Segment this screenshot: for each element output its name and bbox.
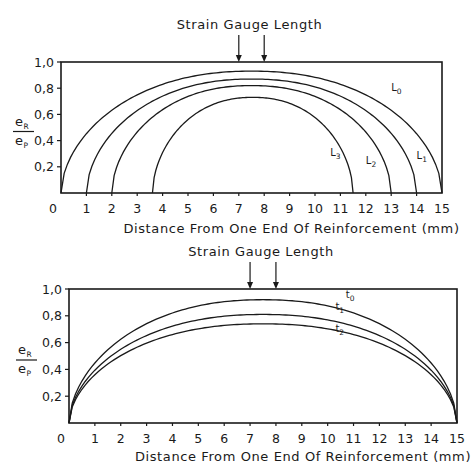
arrow-head-icon: [273, 282, 279, 289]
chart-bottom-time: Strain Gauge Length 0,20,40,60,81,0 0123…: [16, 244, 471, 464]
curves: [69, 300, 457, 423]
curve-label-l2: L2: [366, 155, 377, 169]
curve-label-t0: t0: [346, 289, 355, 303]
x-tick-label: 2: [117, 431, 125, 446]
curve-label-t1: t1: [335, 301, 344, 315]
y-label-numerator: eR: [18, 342, 32, 359]
x-tick-label: 4: [159, 201, 167, 216]
x-tick-label: 11: [346, 431, 362, 446]
y-tick-label: 0,4: [34, 133, 54, 148]
x-tick-label: 10: [307, 201, 323, 216]
x-tick-label: 14: [409, 201, 425, 216]
x-tick-label: 12: [358, 201, 374, 216]
curve-t0: [69, 300, 457, 423]
x-tick-label: 13: [383, 201, 399, 216]
x-tick-label: 7: [235, 201, 243, 216]
gauge-marker-arrows: [236, 35, 267, 62]
arrow-head-icon: [247, 282, 253, 289]
x-axis-ticks: 0123456789101112131415: [57, 423, 465, 446]
curve-label-l3: L3: [330, 147, 341, 161]
curve-l3: [152, 97, 353, 193]
x-axis-ticks: 0123456789101112131415: [49, 193, 450, 216]
x-tick-label: 10: [320, 431, 336, 446]
x-tick-label: 11: [332, 201, 348, 216]
gauge-annotation: Strain Gauge Length: [177, 17, 323, 32]
x-tick-label: 0: [57, 431, 65, 446]
x-tick-label: 15: [434, 201, 450, 216]
y-axis-label: eReP: [13, 114, 34, 150]
x-tick-label: 8: [272, 431, 280, 446]
y-tick-label: 0,4: [42, 362, 62, 377]
curve-label-l0: L0: [391, 82, 402, 96]
y-tick-label: 0,2: [42, 389, 62, 404]
gauge-marker-arrows: [247, 262, 279, 289]
x-axis-label: Distance From One End Of Reinforcement (…: [123, 221, 459, 236]
y-tick-label: 0,8: [34, 81, 54, 96]
x-tick-label: 0: [49, 201, 57, 216]
curve-t1: [69, 314, 457, 423]
y-tick-label: 1,0: [34, 55, 54, 70]
arrow-head-icon: [236, 55, 242, 62]
x-tick-label: 1: [82, 201, 90, 216]
x-tick-label: 9: [286, 201, 294, 216]
arrow-head-icon: [261, 55, 267, 62]
y-label-numerator: eR: [15, 114, 29, 131]
x-tick-label: 9: [298, 431, 306, 446]
x-tick-label: 5: [184, 201, 192, 216]
y-axis-ticks: 0,20,40,60,81,0: [34, 55, 61, 175]
figure-canvas: Strain Gauge Length 0,20,40,60,81,0 0123…: [0, 0, 473, 470]
gauge-annotation: Strain Gauge Length: [188, 244, 334, 259]
y-tick-label: 0,8: [42, 308, 62, 323]
curve-labels: t0t1t2: [335, 289, 354, 337]
x-tick-label: 4: [168, 431, 176, 446]
plot-border: [69, 289, 457, 423]
y-tick-label: 0,6: [34, 107, 54, 122]
y-axis-label: eReP: [16, 342, 37, 378]
x-tick-label: 14: [423, 431, 439, 446]
x-tick-label: 8: [260, 201, 268, 216]
x-tick-label: 3: [143, 431, 151, 446]
x-tick-label: 2: [108, 201, 116, 216]
y-tick-label: 1,0: [42, 282, 62, 297]
y-axis-ticks: 0,20,40,60,81,0: [42, 282, 69, 404]
y-tick-label: 0,6: [42, 335, 62, 350]
x-tick-label: 5: [194, 431, 202, 446]
plot-frame: [69, 289, 457, 423]
y-label-denominator: eP: [15, 133, 29, 150]
x-tick-label: 13: [397, 431, 413, 446]
x-tick-label: 3: [133, 201, 141, 216]
x-tick-label: 6: [209, 201, 217, 216]
curve-label-l1: L1: [417, 150, 428, 164]
x-tick-label: 1: [91, 431, 99, 446]
curve-label-t2: t2: [335, 323, 344, 337]
y-label-denominator: eP: [18, 361, 32, 378]
curve-t2: [69, 324, 457, 423]
chart-top-bond-length: Strain Gauge Length 0,20,40,60,81,0 0123…: [13, 17, 460, 236]
y-tick-label: 0,2: [34, 159, 54, 174]
x-tick-label: 12: [371, 431, 387, 446]
x-tick-label: 7: [246, 431, 254, 446]
x-tick-label: 15: [449, 431, 465, 446]
x-tick-label: 6: [220, 431, 228, 446]
x-axis-label: Distance From One End Of Reinforcement (…: [135, 449, 471, 464]
curve-l0: [61, 71, 442, 193]
curves: [61, 71, 442, 193]
